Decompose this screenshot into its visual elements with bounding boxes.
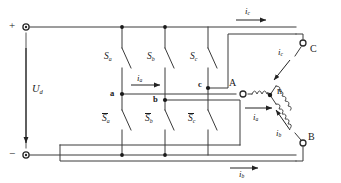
- current-ia-bridge-label: ia: [137, 74, 142, 83]
- switch-sc-bar-blade: [208, 110, 217, 130]
- switch-sc-subscript: c: [195, 56, 198, 62]
- phase-b-lower-wire: [60, 145, 296, 161]
- rail-to-b-terminal: [296, 147, 303, 161]
- current-ib-bottom-label: ib: [239, 170, 244, 179]
- source-voltage-subscript: d: [40, 88, 43, 95]
- circuit-diagram: + − Ud Sa Sb Sc Sa Sb Sc a b c A B C n i…: [0, 0, 341, 183]
- dc-negative-sign: −: [9, 148, 15, 159]
- switch-sc-bar-label: Sc: [188, 113, 195, 124]
- switch-sb-label: Sb: [147, 52, 155, 62]
- source-voltage-symbol: U: [32, 83, 40, 94]
- current-ia-bridge-subscript: a: [140, 77, 143, 83]
- circuit-schematic-canvas: [0, 0, 341, 183]
- switch-sc-label: Sc: [190, 52, 197, 62]
- load-terminal-a-label: A: [229, 78, 236, 88]
- switch-sb-bar-blade: [165, 110, 174, 130]
- current-ib-winding-label: ib: [276, 129, 281, 138]
- dc-positive-sign: +: [9, 20, 15, 31]
- switch-sc-blade: [208, 48, 217, 68]
- load-terminal-c-circle: [300, 40, 306, 46]
- switch-sb-blade: [165, 48, 174, 68]
- switch-sb-bar-subscript: b: [150, 118, 153, 124]
- neutral-point-label: n: [277, 86, 282, 96]
- load-terminal-b-circle: [300, 140, 306, 146]
- load-terminal-b-label: B: [308, 132, 315, 142]
- current-ic-winding-label: ic: [278, 48, 283, 57]
- current-ic-top-label: ic: [245, 7, 250, 16]
- current-ic-top-subscript: c: [248, 10, 250, 16]
- switch-sc-bar-subscript: c: [193, 118, 196, 124]
- load-terminal-a-circle: [240, 91, 246, 97]
- switch-sa-label: Sa: [104, 52, 112, 62]
- switch-sa-subscript: a: [109, 56, 112, 62]
- switch-sa-blade: [122, 48, 131, 68]
- switch-sa-bar-blade: [122, 110, 131, 130]
- winding-b-lead-lower: [295, 133, 301, 140]
- winding-a-coil: [252, 91, 268, 94]
- winding-b-coil: [276, 104, 291, 128]
- switch-sa-bar-label: Sa: [102, 113, 110, 124]
- source-voltage-label: Ud: [32, 84, 43, 95]
- current-arrow-ib-winding: [276, 110, 290, 130]
- switch-sa-bar-subscript: a: [107, 118, 110, 124]
- current-arrow-ic-winding: [274, 60, 290, 80]
- phase-b-wire: [165, 100, 240, 145]
- junction-dots: [120, 25, 272, 157]
- rail-to-c-terminal: [296, 34, 303, 39]
- dc-positive-terminal-dot: [25, 26, 27, 28]
- current-ia-load-label: ia: [253, 113, 258, 122]
- winding-c-lead-upper: [295, 47, 301, 56]
- current-ib-winding-subscript: b: [279, 132, 282, 138]
- current-ic-winding-subscript: c: [281, 51, 283, 57]
- switch-sb-bar-label: Sb: [145, 113, 153, 124]
- node-c-label: c: [198, 80, 202, 89]
- dc-negative-terminal-dot: [25, 154, 27, 156]
- node-b-label: b: [153, 95, 158, 104]
- load-terminal-c-label: C: [310, 44, 317, 54]
- current-ib-bottom-subscript: b: [242, 173, 245, 179]
- current-ia-load-subscript: a: [256, 116, 259, 122]
- switch-sb-subscript: b: [152, 56, 155, 62]
- node-a-label: a: [110, 89, 114, 98]
- phase-c-wire: [208, 34, 296, 88]
